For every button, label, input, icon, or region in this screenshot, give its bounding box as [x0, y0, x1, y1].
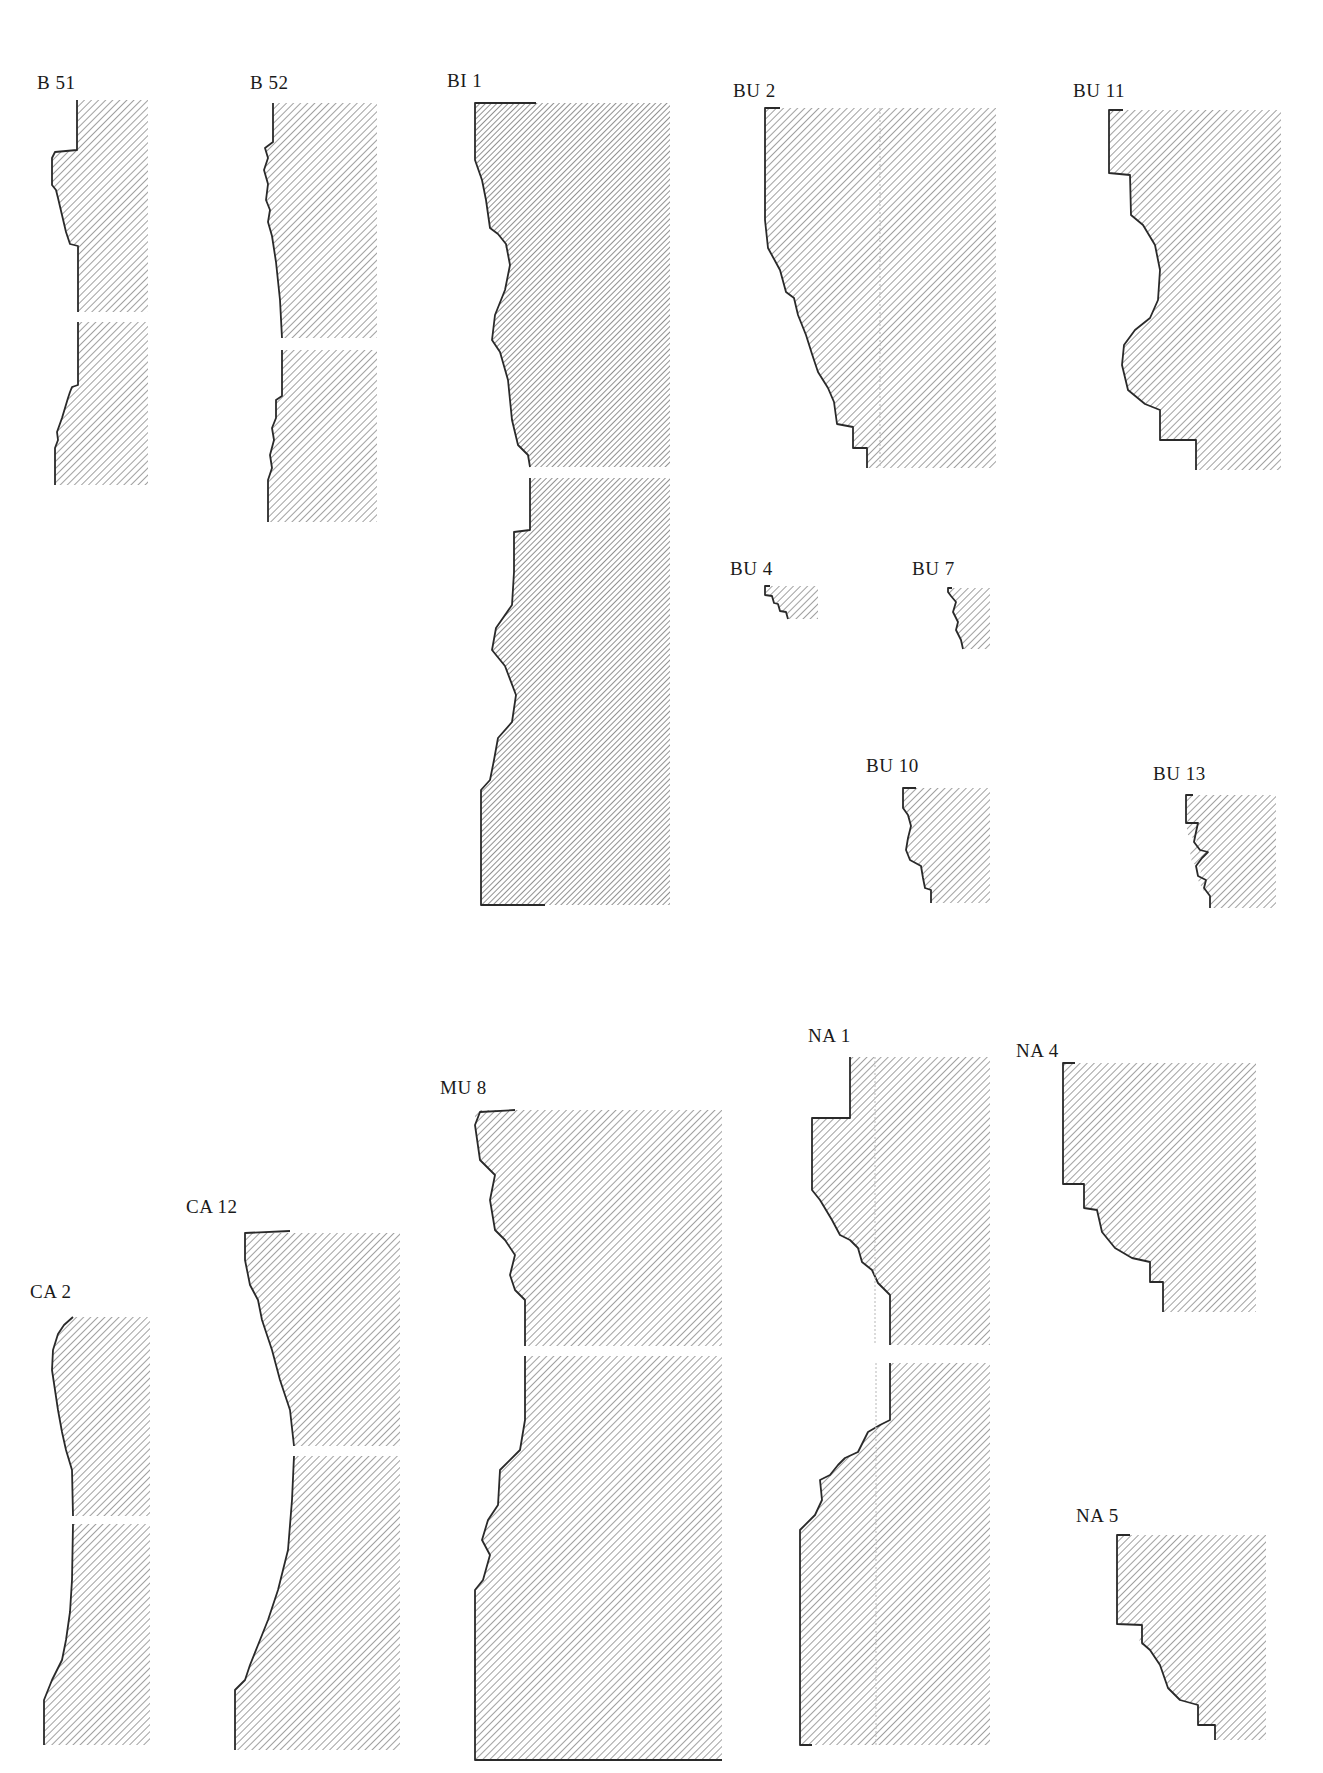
profile-na4 — [1063, 1063, 1256, 1312]
profile-plate-page: B 51 B 52 BI 1 BU 2 BU 11 BU 4 BU 7 BU 1… — [0, 0, 1323, 1773]
profile-bi1 — [475, 103, 670, 905]
profile-bu7 — [948, 588, 990, 649]
profile-na1 — [800, 1057, 990, 1745]
profile-mu8 — [475, 1110, 722, 1760]
profile-drawings — [0, 0, 1323, 1773]
profile-bu11 — [1109, 110, 1281, 470]
profile-ca12 — [235, 1231, 400, 1750]
profile-b51 — [52, 100, 148, 485]
profile-na5 — [1117, 1535, 1266, 1740]
profile-bu4 — [765, 586, 818, 619]
profile-b52 — [264, 103, 377, 522]
profile-bu13 — [1186, 795, 1276, 908]
profile-bu2 — [765, 108, 996, 468]
profile-ca2 — [44, 1317, 150, 1745]
profile-bu10 — [903, 788, 990, 903]
